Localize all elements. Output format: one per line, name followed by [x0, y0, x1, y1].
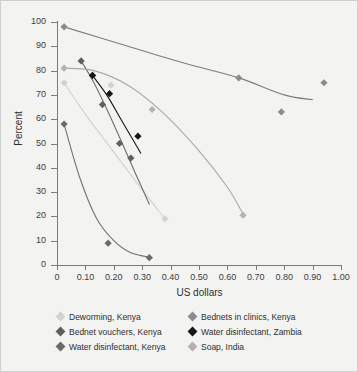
- data-point-marker: [127, 154, 134, 161]
- y-axis-tick-label: 80: [16, 66, 46, 75]
- data-point-marker: [278, 108, 285, 115]
- legend-label: Bednet vouchers, Kenya: [69, 327, 162, 337]
- data-point-marker: [146, 254, 153, 261]
- data-point-marker: [61, 65, 68, 72]
- series-trendline: [64, 68, 244, 216]
- y-axis-tick: [51, 119, 57, 120]
- legend-diamond-icon: [56, 312, 66, 322]
- y-axis-tick: [51, 46, 57, 47]
- y-axis-tick-label: 10: [16, 236, 46, 245]
- x-axis-tick: [85, 265, 86, 270]
- data-point-marker: [61, 120, 68, 127]
- series-trendline: [81, 61, 149, 204]
- y-axis-tick: [51, 71, 57, 72]
- legend-item[interactable]: Bednets in clinics, Kenya: [189, 312, 347, 322]
- data-point-marker: [235, 74, 242, 81]
- data-point-marker: [89, 72, 96, 79]
- y-axis-tick: [51, 22, 57, 23]
- data-point-marker: [239, 212, 246, 219]
- legend-label: Soap, India: [201, 342, 244, 352]
- legend-item[interactable]: Water disinfectant, Zambia: [189, 327, 347, 337]
- data-point-marker: [61, 79, 68, 86]
- x-axis-tick: [256, 265, 257, 270]
- data-point-marker: [161, 215, 168, 222]
- legend-label: Bednets in clinics, Kenya: [201, 312, 296, 322]
- series-trendline: [93, 75, 141, 153]
- legend-diamond-icon: [56, 327, 66, 337]
- x-axis-tick: [114, 265, 115, 270]
- legend-diamond-icon: [188, 312, 198, 322]
- x-axis-title: US dollars: [57, 287, 342, 298]
- data-point-marker: [78, 57, 85, 64]
- data-point-marker: [149, 106, 156, 113]
- legend-diamond-icon: [56, 342, 66, 352]
- legend-diamond-icon: [188, 342, 198, 352]
- data-point-marker: [89, 72, 96, 79]
- series-trendline: [64, 27, 313, 100]
- data-point-marker: [320, 79, 327, 86]
- y-axis-tick-label: 90: [16, 41, 46, 50]
- x-axis-tick: [199, 265, 200, 270]
- x-axis-tick: [142, 265, 143, 270]
- y-axis-tick-label: 0: [16, 260, 46, 269]
- y-axis-tick-label: 30: [16, 187, 46, 196]
- legend-row: Bednet vouchers, KenyaWater disinfectant…: [57, 324, 347, 339]
- chart-figure: 0102030405060708090100 00.100.200.300.40…: [0, 0, 358, 372]
- data-point-marker: [99, 101, 106, 108]
- x-axis-tick: [341, 265, 342, 270]
- x-axis-tick: [57, 265, 58, 270]
- data-point-marker: [105, 240, 112, 247]
- data-point-marker: [61, 23, 68, 30]
- y-axis-line: [57, 21, 58, 266]
- x-axis-tick-label: 1.00: [324, 272, 358, 282]
- x-axis-tick: [171, 265, 172, 270]
- y-axis-title: Percent: [13, 89, 24, 169]
- legend-item[interactable]: Deworming, Kenya: [57, 312, 189, 322]
- legend-diamond-icon: [188, 327, 198, 337]
- legend-row: Deworming, KenyaBednets in clinics, Keny…: [57, 309, 347, 324]
- legend-label: Deworming, Kenya: [69, 312, 141, 322]
- y-axis-tick: [51, 216, 57, 217]
- y-axis-tick-label: 20: [16, 211, 46, 220]
- y-axis-tick: [51, 95, 57, 96]
- y-axis-tick-label: 100: [16, 17, 46, 26]
- x-axis-tick: [313, 265, 314, 270]
- legend-label: Water disinfectant, Kenya: [69, 342, 166, 352]
- y-axis-tick: [51, 192, 57, 193]
- data-point-marker: [134, 133, 141, 140]
- legend-label: Water disinfectant, Zambia: [201, 327, 302, 337]
- y-axis-tick: [51, 144, 57, 145]
- legend-row: Water disinfectant, KenyaSoap, India: [57, 339, 347, 354]
- x-axis-tick: [284, 265, 285, 270]
- legend-item[interactable]: Bednet vouchers, Kenya: [57, 327, 189, 337]
- chart-legend: Deworming, KenyaBednets in clinics, Keny…: [57, 309, 347, 354]
- series-trendline: [64, 83, 165, 219]
- data-point-marker: [116, 140, 123, 147]
- series-trendline: [64, 124, 152, 258]
- x-axis-tick: [227, 265, 228, 270]
- y-axis-tick: [51, 241, 57, 242]
- legend-item[interactable]: Water disinfectant, Kenya: [57, 342, 189, 352]
- legend-item[interactable]: Soap, India: [189, 342, 347, 352]
- data-point-marker: [106, 90, 113, 97]
- data-point-marker: [107, 82, 114, 89]
- y-axis-tick: [51, 168, 57, 169]
